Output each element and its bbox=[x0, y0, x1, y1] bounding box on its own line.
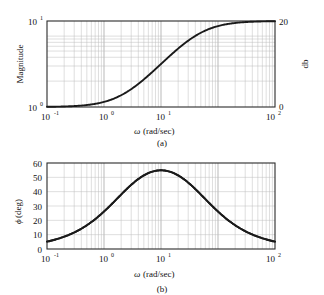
phase-plot-panel: 10 -1 10 0 10 1 10 2 60 50 40 30 20 10 0 bbox=[0, 148, 324, 295]
y-tick-label: 0 bbox=[38, 245, 43, 255]
x-tick-exponent: 2 bbox=[278, 252, 281, 258]
x-tick-exponent: 0 bbox=[111, 252, 114, 258]
x-tick-exponent: -1 bbox=[54, 252, 59, 258]
y-right-tick-label: 20 bbox=[279, 17, 289, 27]
x-tick-label: 10 bbox=[41, 254, 51, 264]
phase-y-axis-title: ϕ (deg) bbox=[13, 199, 23, 224]
x-tick-exponent: 1 bbox=[168, 110, 171, 116]
phi-symbol: ϕ bbox=[13, 219, 23, 224]
phase-x-tick-labels: 10 -1 10 0 10 1 10 2 bbox=[41, 252, 281, 264]
panel-a-caption: (a) bbox=[157, 138, 167, 148]
x-tick-label: 10 bbox=[99, 112, 109, 122]
y-tick-exponent: 1 bbox=[40, 15, 43, 21]
magnitude-y-right-tick-labels: 20 0 bbox=[279, 17, 289, 112]
y-tick-exponent: 0 bbox=[40, 101, 43, 107]
y-right-tick-label: 0 bbox=[279, 102, 284, 112]
x-tick-exponent: -1 bbox=[54, 110, 59, 116]
y-tick-label: 30 bbox=[33, 202, 43, 212]
magnitude-plot-panel: 10 -1 10 0 10 1 10 2 10 1 10 0 20 0 bbox=[0, 0, 324, 148]
magnitude-x-tick-labels: 10 -1 10 0 10 1 10 2 bbox=[41, 110, 281, 122]
x-tick-label: 10 bbox=[99, 254, 109, 264]
x-tick-label: 10 bbox=[266, 112, 276, 122]
x-tick-label: 10 bbox=[156, 254, 166, 264]
x-tick-label: 10 bbox=[266, 254, 276, 264]
panel-b-caption: (b) bbox=[157, 284, 168, 294]
x-tick-label: 10 bbox=[41, 112, 51, 122]
y-tick-label: 10 bbox=[33, 230, 43, 240]
phase-x-axis-title: ω (rad/sec) bbox=[134, 269, 174, 279]
y-tick-label: 40 bbox=[33, 187, 43, 197]
rad-per-sec-units: (rad/sec) bbox=[143, 126, 174, 136]
omega-symbol: ω bbox=[134, 269, 140, 279]
x-tick-exponent: 1 bbox=[168, 252, 171, 258]
y-tick-label: 20 bbox=[33, 216, 43, 226]
db-y-axis-title: db bbox=[300, 59, 310, 69]
omega-symbol: ω bbox=[134, 126, 140, 136]
phase-y-tick-labels: 60 50 40 30 20 10 0 bbox=[33, 159, 43, 255]
x-tick-exponent: 0 bbox=[111, 110, 114, 116]
deg-units: (deg) bbox=[13, 199, 23, 218]
y-tick-label: 10 bbox=[28, 17, 38, 27]
y-tick-label: 60 bbox=[33, 159, 43, 169]
magnitude-plot-svg: 10 -1 10 0 10 1 10 2 10 1 10 0 20 0 bbox=[0, 0, 324, 148]
magnitude-x-axis-title: ω (rad/sec) bbox=[134, 126, 174, 136]
rad-per-sec-units: (rad/sec) bbox=[143, 269, 174, 279]
x-tick-label: 10 bbox=[156, 112, 166, 122]
y-tick-label: 10 bbox=[28, 103, 38, 113]
bode-plot-figure: 10 -1 10 0 10 1 10 2 10 1 10 0 20 0 bbox=[0, 0, 324, 295]
y-tick-label: 50 bbox=[33, 173, 43, 183]
magnitude-y-left-tick-labels: 10 1 10 0 bbox=[28, 15, 43, 113]
magnitude-y-axis-title: Magnitude bbox=[15, 45, 25, 84]
phase-plot-svg: 10 -1 10 0 10 1 10 2 60 50 40 30 20 10 0 bbox=[0, 148, 324, 295]
